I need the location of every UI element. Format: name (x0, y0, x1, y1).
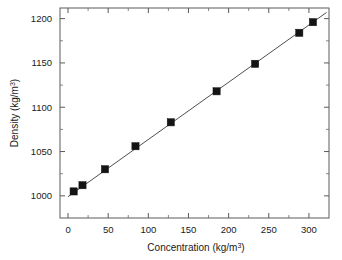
chart-figure: 050100150200250300 10001050110011501200 … (0, 0, 342, 260)
data-point-marker (132, 143, 139, 150)
y-axis-title: Density (kg/m3) (9, 79, 21, 147)
x-axis-title: Concentration (kg/m3) (147, 242, 244, 254)
data-point-marker (296, 29, 303, 36)
data-point-marker (101, 166, 108, 173)
x-tick-label: 300 (301, 224, 317, 235)
data-point-marker (70, 188, 77, 195)
x-tick-label: 150 (181, 224, 197, 235)
y-tick-label: 1000 (31, 190, 52, 201)
y-tick-label: 1150 (32, 57, 52, 68)
x-tick-label: 0 (65, 224, 70, 235)
data-point-marker (79, 182, 86, 189)
x-tick-label: 100 (140, 224, 156, 235)
data-point-marker (252, 60, 259, 67)
data-point-marker (167, 119, 174, 126)
x-tick-label: 250 (261, 224, 277, 235)
y-tick-label: 1050 (31, 146, 52, 157)
x-tick-label: 50 (103, 224, 114, 235)
y-tick-label: 1200 (31, 13, 52, 24)
y-tick-label: 1100 (32, 102, 52, 113)
data-point-marker (309, 19, 316, 26)
chart-background (0, 0, 342, 260)
density-concentration-scatter-chart: 050100150200250300 10001050110011501200 … (0, 0, 342, 260)
x-tick-label: 200 (221, 224, 237, 235)
data-point-marker (213, 88, 220, 95)
